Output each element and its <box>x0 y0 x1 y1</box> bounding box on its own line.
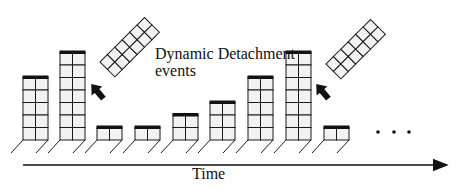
bar-4 <box>123 126 161 154</box>
bar-7 <box>236 76 274 154</box>
annotation-dynamic-detachment: Dynamic Detachment <box>155 45 295 63</box>
bar-6 <box>198 101 236 154</box>
detachment-arrow-1-icon <box>86 80 109 104</box>
detached-segment-1 <box>100 17 159 76</box>
bar-5 <box>161 113 199 153</box>
bar-9 <box>312 126 350 154</box>
detached-segment-2 <box>326 19 385 78</box>
bar-1 <box>11 76 49 154</box>
bar-8 <box>274 51 312 154</box>
detachment-arrow-2-icon <box>311 80 334 104</box>
annotation-events: events <box>155 62 196 80</box>
bar-3 <box>85 126 123 154</box>
time-axis-label: Time <box>192 165 225 183</box>
detachment-diagram <box>0 0 469 188</box>
ellipsis-dots <box>376 130 411 134</box>
bar-2 <box>48 51 86 154</box>
